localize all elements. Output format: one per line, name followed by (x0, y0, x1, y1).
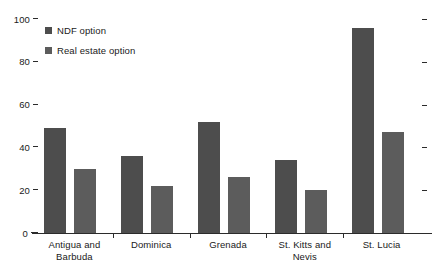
category-label-line: Nevis (266, 251, 343, 263)
category-label-line: Grenada (190, 239, 267, 251)
category-separator-tick (343, 233, 344, 238)
category-separator-tick (190, 233, 191, 238)
x-axis-category-labels: Antigua andBarbudaDominicaGrenadaSt. Kit… (0, 239, 438, 267)
category-separator-tick (266, 233, 267, 238)
category-separator-tick (113, 233, 114, 238)
category-label: Antigua andBarbuda (36, 239, 113, 262)
category-label: Dominica (113, 239, 190, 251)
category-label-line: St. Kitts and (266, 239, 343, 251)
category-separators (0, 0, 438, 267)
category-label: Grenada (190, 239, 267, 251)
category-label: St. Lucia (343, 239, 420, 251)
category-label-line: St. Lucia (343, 239, 420, 251)
category-label-line: Dominica (113, 239, 190, 251)
bar-chart: 020406080100 NDF optionReal estate optio… (0, 0, 438, 267)
category-label-line: Barbuda (36, 251, 113, 263)
category-label-line: Antigua and (36, 239, 113, 251)
category-label: St. Kitts andNevis (266, 239, 343, 262)
